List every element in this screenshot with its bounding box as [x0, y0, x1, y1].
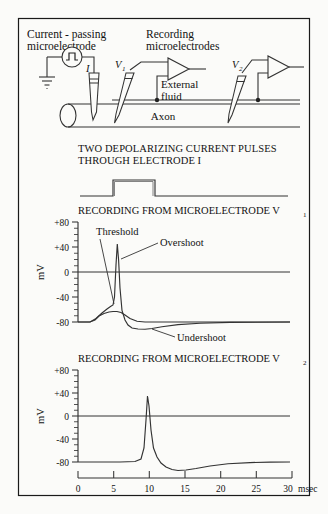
panel-v1-ytick-1: +40 [54, 243, 69, 253]
panel-v1-ytick-3: -40 [56, 293, 69, 303]
panel-v2-x-axis-unit: msec [298, 484, 318, 494]
current-electrode-label: I [85, 63, 90, 74]
recording-label-line2: microelectrodes [146, 40, 220, 52]
panel-v2-xtick-6: 30 [283, 484, 293, 494]
panel-v2-y-axis-label: mV [35, 408, 46, 424]
panel-v2-xtick-4: 20 [216, 484, 226, 494]
panel-v2-xtick-2: 10 [145, 484, 155, 494]
panel-v2-ytick-4: -80 [56, 458, 69, 468]
external-fluid-label-line1: External [161, 78, 198, 90]
panel-v1-title-subscript: 1 [303, 211, 307, 219]
stimulator-label-line2: microelectrode [27, 40, 96, 52]
panel-v1-y-axis-label: mV [35, 264, 46, 280]
panel-v2-xtick-5: 25 [252, 484, 262, 494]
axon-label: Axon [151, 110, 176, 122]
panel-v1-ytick-4: -80 [56, 318, 69, 328]
electrode-v1-subscript: 1 [122, 65, 126, 73]
panel-v2-ytick-0: +80 [54, 366, 69, 376]
panel-v1-overshoot-label: Overshoot [160, 237, 204, 248]
v1-bath-reference-dot [155, 98, 159, 102]
panel-v1-ytick-2: 0 [64, 268, 69, 278]
panel-v2-ytick-2: 0 [64, 412, 69, 422]
panel-v2-ytick-1: +40 [54, 389, 69, 399]
pulse-generator-icon [62, 47, 82, 67]
panel-v2-xtick-0: 0 [76, 484, 81, 494]
panel-v2-xtick-3: 15 [180, 484, 190, 494]
panel-v1-ytick-0: +80 [54, 218, 69, 228]
stimulus-title-line1: TWO DEPOLARIZING CURRENT PULSES [78, 143, 277, 154]
panel-v2-xtick-1: 5 [111, 484, 116, 494]
external-fluid-label-line2: fluid [161, 90, 182, 102]
panel-v2-ytick-3: -40 [56, 435, 69, 445]
v2-bath-reference-dot [256, 98, 260, 102]
panel-v1-threshold-label: Threshold [96, 226, 139, 237]
panel-v2-title-subscript: 2 [303, 359, 307, 367]
panel-v1-title: RECORDING FROM MICROELECTRODE V [78, 205, 280, 216]
figure-root: Current - passing microelectrode Recordi… [0, 0, 328, 514]
stimulus-title-line2: THROUGH ELECTRODE I [78, 155, 202, 166]
panel-v2-title: RECORDING FROM MICROELECTRODE V [78, 353, 280, 364]
panel-v1-undershoot-label: Undershoot [177, 332, 226, 343]
